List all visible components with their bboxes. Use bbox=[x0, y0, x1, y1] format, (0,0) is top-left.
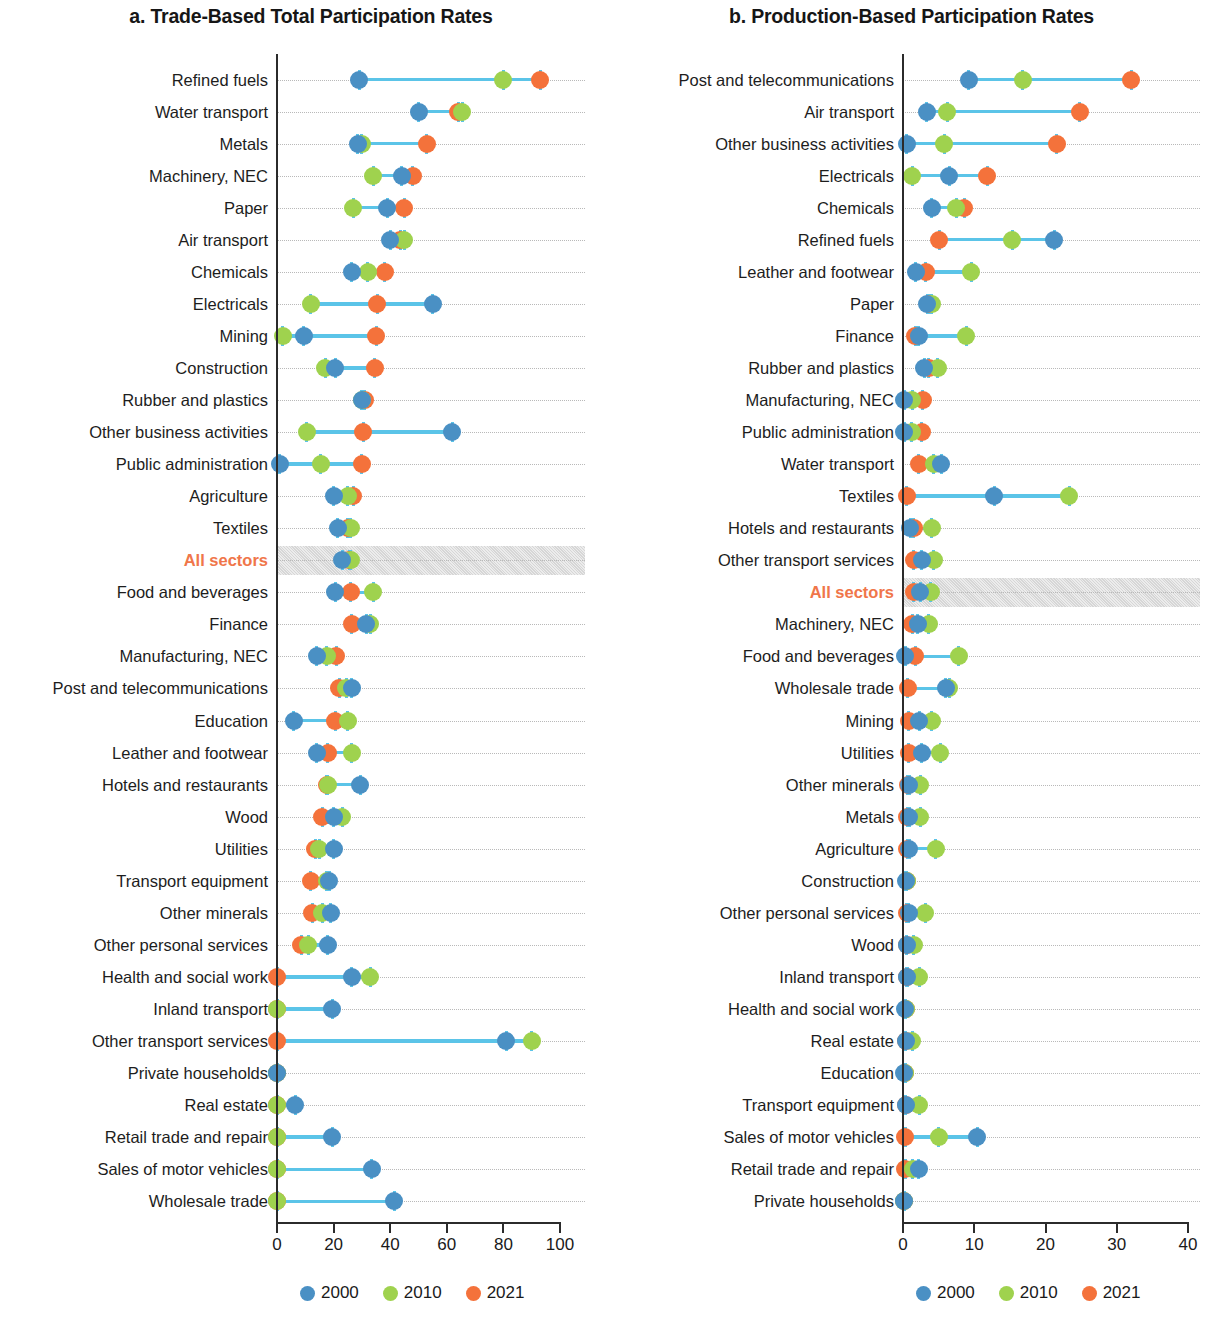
data-point-2000[interactable] bbox=[898, 936, 916, 954]
data-point-2000[interactable] bbox=[378, 199, 396, 217]
data-point-2000[interactable] bbox=[381, 231, 399, 249]
data-point-2000[interactable] bbox=[896, 1000, 914, 1018]
data-point-2000[interactable] bbox=[907, 263, 925, 281]
data-point-2010[interactable] bbox=[916, 904, 934, 922]
data-point-2000[interactable] bbox=[910, 327, 928, 345]
data-point-2000[interactable] bbox=[985, 487, 1003, 505]
data-point-2010[interactable] bbox=[930, 1128, 948, 1146]
data-point-2000[interactable] bbox=[385, 1192, 403, 1210]
data-point-2000[interactable] bbox=[326, 583, 344, 601]
data-point-2010[interactable] bbox=[298, 423, 316, 441]
data-point-2010[interactable] bbox=[1060, 487, 1078, 505]
data-point-2000[interactable] bbox=[898, 135, 916, 153]
data-point-2010[interactable] bbox=[302, 295, 320, 313]
data-point-2000[interactable] bbox=[960, 71, 978, 89]
data-point-2010[interactable] bbox=[927, 840, 945, 858]
data-point-2021[interactable] bbox=[367, 327, 385, 345]
data-point-2021[interactable] bbox=[978, 167, 996, 185]
data-point-2010[interactable] bbox=[299, 936, 317, 954]
legend-item-2010[interactable]: 2010 bbox=[383, 1283, 442, 1303]
data-point-2021[interactable] bbox=[896, 1128, 914, 1146]
data-point-2000[interactable] bbox=[325, 840, 343, 858]
data-point-2000[interactable] bbox=[363, 1160, 381, 1178]
data-point-2000[interactable] bbox=[325, 487, 343, 505]
data-point-2000[interactable] bbox=[913, 551, 931, 569]
data-point-2000[interactable] bbox=[913, 744, 931, 762]
data-point-2010[interactable] bbox=[364, 167, 382, 185]
data-point-2010[interactable] bbox=[950, 647, 968, 665]
data-point-2000[interactable] bbox=[897, 1032, 915, 1050]
data-point-2021[interactable] bbox=[1071, 103, 1089, 121]
data-point-2010[interactable] bbox=[312, 455, 330, 473]
data-point-2021[interactable] bbox=[898, 487, 916, 505]
data-point-2010[interactable] bbox=[1003, 231, 1021, 249]
data-point-2000[interactable] bbox=[343, 968, 361, 986]
data-point-2000[interactable] bbox=[285, 712, 303, 730]
data-point-2021[interactable] bbox=[366, 359, 384, 377]
legend-item-2000[interactable]: 2000 bbox=[300, 1283, 359, 1303]
data-point-2021[interactable] bbox=[395, 199, 413, 217]
data-point-2000[interactable] bbox=[443, 423, 461, 441]
data-point-2010[interactable] bbox=[962, 263, 980, 281]
data-point-2000[interactable] bbox=[897, 872, 915, 890]
legend-item-2010[interactable]: 2010 bbox=[999, 1283, 1058, 1303]
data-point-2000[interactable] bbox=[353, 391, 371, 409]
data-point-2010[interactable] bbox=[923, 519, 941, 537]
data-point-2021[interactable] bbox=[353, 455, 371, 473]
data-point-2000[interactable] bbox=[343, 263, 361, 281]
data-point-2000[interactable] bbox=[410, 103, 428, 121]
data-point-2010[interactable] bbox=[319, 776, 337, 794]
data-point-2010[interactable] bbox=[957, 327, 975, 345]
data-point-2000[interactable] bbox=[325, 808, 343, 826]
data-point-2000[interactable] bbox=[1045, 231, 1063, 249]
data-point-2010[interactable] bbox=[453, 103, 471, 121]
data-point-2021[interactable] bbox=[354, 423, 372, 441]
data-point-2000[interactable] bbox=[497, 1032, 515, 1050]
data-point-2000[interactable] bbox=[295, 327, 313, 345]
data-point-2021[interactable] bbox=[1122, 71, 1140, 89]
data-point-2000[interactable] bbox=[897, 1096, 915, 1114]
data-point-2000[interactable] bbox=[308, 744, 326, 762]
data-point-2010[interactable] bbox=[344, 199, 362, 217]
data-point-2010[interactable] bbox=[339, 712, 357, 730]
data-point-2000[interactable] bbox=[326, 359, 344, 377]
data-point-2000[interactable] bbox=[329, 519, 347, 537]
data-point-2000[interactable] bbox=[320, 872, 338, 890]
data-point-2000[interactable] bbox=[910, 1160, 928, 1178]
data-point-2000[interactable] bbox=[910, 712, 928, 730]
data-point-2010[interactable] bbox=[903, 167, 921, 185]
data-point-2021[interactable] bbox=[376, 263, 394, 281]
legend-item-2021[interactable]: 2021 bbox=[466, 1283, 525, 1303]
legend-item-2000[interactable]: 2000 bbox=[916, 1283, 975, 1303]
data-point-2000[interactable] bbox=[968, 1128, 986, 1146]
data-point-2000[interactable] bbox=[323, 1128, 341, 1146]
data-point-2000[interactable] bbox=[350, 71, 368, 89]
data-point-2010[interactable] bbox=[1014, 71, 1032, 89]
data-point-2021[interactable] bbox=[342, 583, 360, 601]
data-point-2000[interactable] bbox=[322, 904, 340, 922]
data-point-2000[interactable] bbox=[271, 455, 289, 473]
data-point-2000[interactable] bbox=[349, 135, 367, 153]
data-point-2010[interactable] bbox=[931, 744, 949, 762]
data-point-2021[interactable] bbox=[418, 135, 436, 153]
data-point-2000[interactable] bbox=[351, 776, 369, 794]
data-point-2000[interactable] bbox=[323, 1000, 341, 1018]
data-point-2000[interactable] bbox=[424, 295, 442, 313]
data-point-2010[interactable] bbox=[523, 1032, 541, 1050]
data-point-2010[interactable] bbox=[359, 263, 377, 281]
data-point-2010[interactable] bbox=[343, 744, 361, 762]
legend-item-2021[interactable]: 2021 bbox=[1082, 1283, 1141, 1303]
data-point-2000[interactable] bbox=[940, 167, 958, 185]
data-point-2000[interactable] bbox=[319, 936, 337, 954]
data-point-2000[interactable] bbox=[343, 679, 361, 697]
data-point-2000[interactable] bbox=[918, 295, 936, 313]
data-point-2021[interactable] bbox=[1048, 135, 1066, 153]
data-point-2000[interactable] bbox=[918, 103, 936, 121]
data-point-2000[interactable] bbox=[308, 647, 326, 665]
data-point-2010[interactable] bbox=[494, 71, 512, 89]
data-point-2010[interactable] bbox=[361, 968, 379, 986]
data-point-2021[interactable] bbox=[368, 295, 386, 313]
data-point-2021[interactable] bbox=[930, 231, 948, 249]
data-point-2000[interactable] bbox=[393, 167, 411, 185]
data-point-2021[interactable] bbox=[531, 71, 549, 89]
